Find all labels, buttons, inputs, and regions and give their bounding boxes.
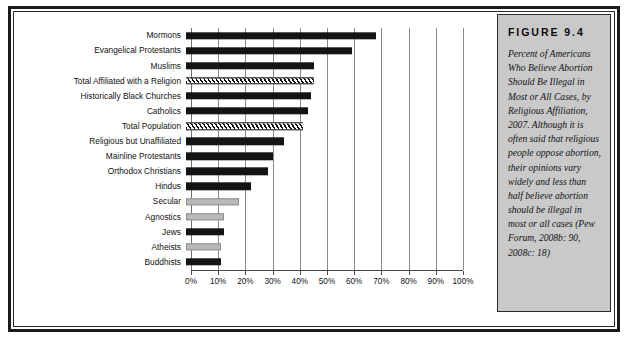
plot-area: MormonsEvangelical ProtestantsMuslimsTot… bbox=[14, 12, 474, 312]
tick-mark-40 bbox=[300, 271, 301, 275]
bar-category-label: Atheists bbox=[14, 243, 186, 251]
bar-total-population bbox=[186, 122, 303, 129]
x-tick-label: 10% bbox=[210, 277, 226, 286]
bar-row: Historically Black Churches bbox=[14, 88, 474, 103]
x-tick-label: 100% bbox=[453, 277, 474, 286]
tick-mark-100 bbox=[463, 271, 464, 275]
bar-category-label: Historically Black Churches bbox=[14, 92, 186, 100]
bar-hindus bbox=[186, 183, 251, 190]
bar-track bbox=[186, 224, 458, 239]
bar-row: Mormons bbox=[14, 28, 474, 43]
bar-rows: MormonsEvangelical ProtestantsMuslimsTot… bbox=[14, 28, 474, 270]
figure-caption-panel: FIGURE 9.4 Percent of Americans Who Beli… bbox=[497, 14, 611, 312]
bar-row: Agnostics bbox=[14, 209, 474, 224]
bar-row: Total Population bbox=[14, 119, 474, 134]
x-tick-label: 20% bbox=[237, 277, 253, 286]
tick-mark-20 bbox=[245, 271, 246, 275]
tick-mark-60 bbox=[354, 271, 355, 275]
bar-track bbox=[186, 179, 458, 194]
tick-mark-90 bbox=[436, 271, 437, 275]
bar-row: Hindus bbox=[14, 179, 474, 194]
bar-category-label: Hindus bbox=[14, 182, 186, 190]
bar-row: Atheists bbox=[14, 239, 474, 254]
bar-category-label: Religious but Unaffiliated bbox=[14, 137, 186, 145]
bar-row: Total Affiliated with a Religion bbox=[14, 73, 474, 88]
x-tick-label: 70% bbox=[373, 277, 389, 286]
x-tick-label: 30% bbox=[264, 277, 280, 286]
bar-track bbox=[186, 103, 458, 118]
bar-mainline-protestants bbox=[186, 153, 273, 160]
bar-mormons bbox=[186, 32, 376, 39]
bar-muslims bbox=[186, 62, 314, 69]
bar-religious-but-unaffiliated bbox=[186, 138, 284, 145]
bar-agnostics bbox=[186, 213, 224, 220]
bar-row: Mainline Protestants bbox=[14, 149, 474, 164]
bar-chart: MormonsEvangelical ProtestantsMuslimsTot… bbox=[14, 12, 474, 312]
bar-total-affiliated-with-a-religion bbox=[186, 77, 314, 84]
bar-track bbox=[186, 194, 458, 209]
bar-evangelical-protestants bbox=[186, 47, 352, 54]
bar-category-label: Catholics bbox=[14, 107, 186, 115]
tick-mark-80 bbox=[409, 271, 410, 275]
x-tick-label: 50% bbox=[319, 277, 335, 286]
bar-category-label: Total Affiliated with a Religion bbox=[14, 77, 186, 85]
bar-catholics bbox=[186, 107, 308, 114]
bar-row: Jews bbox=[14, 224, 474, 239]
bar-category-label: Agnostics bbox=[14, 213, 186, 221]
bar-track bbox=[186, 58, 458, 73]
bar-track bbox=[186, 164, 458, 179]
bar-track bbox=[186, 254, 458, 269]
bar-track bbox=[186, 88, 458, 103]
bar-row: Catholics bbox=[14, 103, 474, 118]
bar-category-label: Orthodox Christians bbox=[14, 167, 186, 175]
tick-mark-0 bbox=[191, 271, 192, 275]
x-tick-label: 40% bbox=[292, 277, 308, 286]
bar-track bbox=[186, 209, 458, 224]
bar-row: Evangelical Protestants bbox=[14, 43, 474, 58]
bar-historically-black-churches bbox=[186, 92, 311, 99]
bar-category-label: Mainline Protestants bbox=[14, 152, 186, 160]
bar-track bbox=[186, 73, 458, 88]
bar-category-label: Muslims bbox=[14, 62, 186, 70]
bar-category-label: Evangelical Protestants bbox=[14, 46, 186, 54]
x-tick-label: 80% bbox=[400, 277, 416, 286]
tick-mark-10 bbox=[218, 271, 219, 275]
bar-row: Muslims bbox=[14, 58, 474, 73]
bar-row: Religious but Unaffiliated bbox=[14, 134, 474, 149]
x-tick-label: 60% bbox=[346, 277, 362, 286]
bar-atheists bbox=[186, 243, 221, 250]
bar-track bbox=[186, 43, 458, 58]
bar-track bbox=[186, 28, 458, 43]
figure-number-label: FIGURE 9.4 bbox=[508, 26, 601, 38]
bar-category-label: Total Population bbox=[14, 122, 186, 130]
bar-row: Buddhists bbox=[14, 254, 474, 269]
bar-jews bbox=[186, 228, 224, 235]
bar-track bbox=[186, 119, 458, 134]
tick-mark-70 bbox=[381, 271, 382, 275]
bar-buddhists bbox=[186, 258, 221, 265]
bar-category-label: Jews bbox=[14, 228, 186, 236]
bar-track bbox=[186, 239, 458, 254]
tick-mark-50 bbox=[327, 271, 328, 275]
figure-caption-text: Percent of Americans Who Believe Abortio… bbox=[508, 47, 601, 260]
x-tick-label: 90% bbox=[428, 277, 444, 286]
tick-mark-30 bbox=[273, 271, 274, 275]
bar-orthodox-christians bbox=[186, 168, 268, 175]
bar-category-label: Mormons bbox=[14, 31, 186, 39]
x-tick-label: 0% bbox=[185, 277, 197, 286]
bar-row: Orthodox Christians bbox=[14, 164, 474, 179]
bar-row: Secular bbox=[14, 194, 474, 209]
bar-category-label: Buddhists bbox=[14, 258, 186, 266]
figure-container: MormonsEvangelical ProtestantsMuslimsTot… bbox=[0, 0, 636, 344]
bar-track bbox=[186, 149, 458, 164]
bar-category-label: Secular bbox=[14, 197, 186, 205]
bar-track bbox=[186, 134, 458, 149]
bar-secular bbox=[186, 198, 239, 205]
